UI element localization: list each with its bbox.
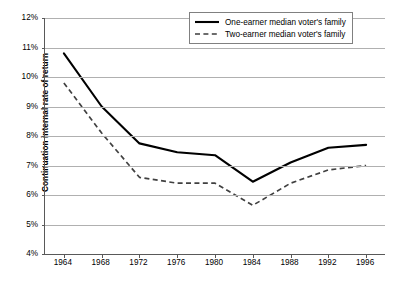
y-tick-mark — [42, 136, 45, 137]
x-tick-label: 1972 — [118, 258, 158, 267]
y-tick-mark — [42, 77, 45, 78]
legend-item-one-earner: One-earner median voter's family — [194, 16, 346, 28]
gridline — [45, 195, 385, 196]
gridline — [45, 225, 385, 226]
chart-container: Continuation internal rate of return 12%… — [0, 0, 397, 281]
x-tick-label: 1968 — [81, 258, 121, 267]
legend-swatch-solid — [194, 17, 220, 27]
y-tick-label: 8% — [8, 132, 38, 140]
x-tick-label: 1992 — [307, 258, 347, 267]
legend-item-two-earner: Two-earner median voter's family — [194, 28, 346, 40]
plot-area — [44, 18, 385, 255]
chart-legend: One-earner median voter's family Two-ear… — [189, 12, 353, 44]
series-line-one-earner — [64, 53, 366, 181]
y-tick-label: 6% — [8, 191, 38, 199]
x-tick-label: 1976 — [156, 258, 196, 267]
x-axis-tick-labels: 196419681972197619801984198819921996 — [44, 258, 384, 274]
y-tick-label: 12% — [8, 14, 38, 22]
y-tick-label: 5% — [8, 221, 38, 229]
y-tick-mark — [42, 195, 45, 196]
y-tick-mark — [42, 48, 45, 49]
y-axis-tick-labels: 12%11%10%9%8%7%6%5%4% — [8, 0, 38, 281]
y-tick-label: 7% — [8, 162, 38, 170]
gridline — [45, 166, 385, 167]
x-tick-label: 1988 — [270, 258, 310, 267]
x-tick-label: 1984 — [232, 258, 272, 267]
legend-swatch-dashed — [194, 29, 220, 39]
y-tick-label: 4% — [8, 250, 38, 258]
gridline — [45, 48, 385, 49]
y-tick-mark — [42, 254, 45, 255]
gridline — [45, 107, 385, 108]
y-tick-mark — [42, 18, 45, 19]
gridline — [45, 136, 385, 137]
legend-label-two-earner: Two-earner median voter's family — [225, 30, 345, 39]
legend-label-one-earner: One-earner median voter's family — [225, 18, 346, 27]
y-tick-mark — [42, 107, 45, 108]
x-tick-label: 1996 — [345, 258, 385, 267]
gridline — [45, 77, 385, 78]
y-tick-mark — [42, 225, 45, 226]
y-tick-label: 11% — [8, 44, 38, 52]
series-line-two-earner — [64, 83, 366, 205]
x-tick-label: 1964 — [43, 258, 83, 267]
y-tick-mark — [42, 166, 45, 167]
y-tick-label: 10% — [8, 73, 38, 81]
y-tick-label: 9% — [8, 103, 38, 111]
x-tick-label: 1980 — [194, 258, 234, 267]
